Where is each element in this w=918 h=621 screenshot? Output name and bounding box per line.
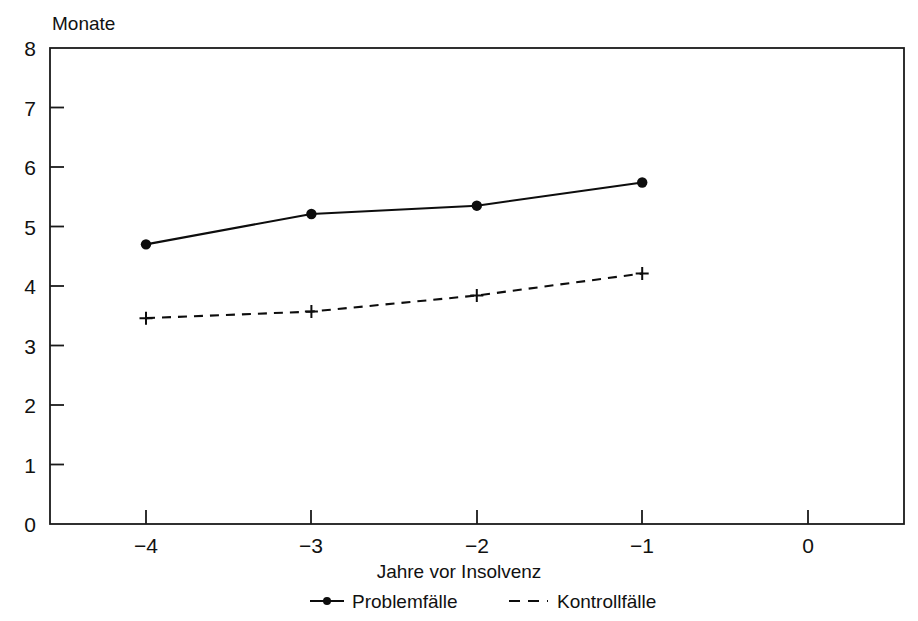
line-chart-canvas: Monate 8 7 6 5 4 3 2 1 0 −4 −3 −2 −1 0 J… (0, 0, 918, 621)
y-tick-label-7: 7 (24, 97, 36, 120)
legend-label-problemfaelle: Problemfälle (352, 591, 458, 612)
y-axis-ticks (50, 108, 64, 465)
series-2 (140, 267, 649, 325)
series-1 (141, 177, 648, 249)
series-line-kontrollfälle (146, 274, 642, 319)
y-tick-label-0: 0 (24, 513, 36, 536)
data-point-marker (306, 209, 316, 219)
data-point-marker (141, 239, 151, 249)
y-tick-label-5: 5 (24, 216, 36, 239)
y-tick-label-2: 2 (24, 394, 36, 417)
y-tick-label-4: 4 (24, 275, 36, 298)
legend-entry-problemfaelle: Problemfälle (310, 591, 458, 612)
y-tick-label-1: 1 (24, 454, 36, 477)
data-point-marker (636, 267, 649, 280)
x-tick-label-m3: −3 (299, 534, 323, 557)
y-tick-label-6: 6 (24, 156, 36, 179)
x-tick-label-m2: −2 (465, 534, 489, 557)
data-point-marker (140, 312, 153, 325)
chart-legend: Problemfälle Kontrollfälle (310, 591, 656, 612)
x-axis-title: Jahre vor Insolvenz (377, 561, 542, 582)
data-point-marker (472, 200, 482, 210)
y-axis-unit-label: Monate (52, 13, 115, 34)
data-point-marker (637, 177, 647, 187)
legend-entry-kontrollfaelle: Kontrollfälle (509, 591, 656, 612)
legend-label-kontrollfaelle: Kontrollfälle (557, 591, 656, 612)
data-point-marker (470, 289, 483, 302)
chart-figure: Monate 8 7 6 5 4 3 2 1 0 −4 −3 −2 −1 0 J… (0, 0, 918, 621)
x-tick-label-m1: −1 (630, 534, 654, 557)
data-point-marker (305, 305, 318, 318)
legend-circle-marker-icon (323, 597, 331, 605)
y-tick-label-3: 3 (24, 335, 36, 358)
series-line-problemfälle (146, 182, 642, 244)
x-tick-label-m4: −4 (134, 534, 158, 557)
plot-frame (50, 48, 904, 524)
data-series-layer (140, 177, 649, 324)
y-tick-label-8: 8 (24, 37, 36, 60)
x-tick-label-0: 0 (802, 534, 814, 557)
x-axis-ticks (146, 510, 808, 524)
